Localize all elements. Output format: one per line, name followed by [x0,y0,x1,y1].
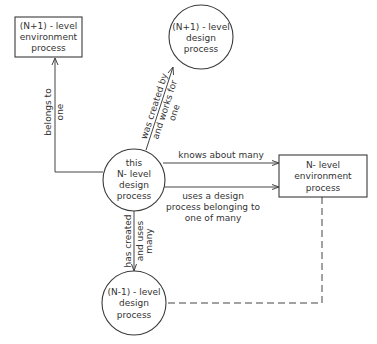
node-label-line: environment [294,171,352,181]
node-label-line: N- level [117,169,151,179]
node-label-line: process [31,43,66,53]
edge-label-uses-2: process belonging to [166,202,260,212]
edge-label-belongs-to: belongs to [43,88,53,136]
node-label-line: N- level [306,160,340,170]
node-label-line: (N+1) - level [20,21,77,31]
node-n-minus-1-design-process[interactable]: (N-1) - level design process [102,271,166,335]
node-label-line: process [117,310,152,320]
edge-label-uses-1: uses a design [182,191,244,201]
design-process-diagram: belongs to one was created by and works … [0,0,377,344]
edge-label-uses-3: one of many [185,213,242,223]
node-n-plus-1-design-process[interactable]: (N+1) - level design process [169,5,233,69]
edge-label-knows-about: knows about many [178,150,264,160]
edge-label-line: one [55,103,65,120]
node-label-line: process [117,191,152,201]
edge-label-belongs-to-2: one [55,103,65,120]
node-n-level-environment-process[interactable]: N- level environment process [279,155,367,197]
edge-label-has-created-1: has created [123,214,133,267]
node-label-line: this [126,158,143,168]
node-label-line: (N-1) - level [107,287,160,297]
edge-label-has-created-3: many [144,228,154,254]
node-n-plus-1-environment-process[interactable]: (N+1) - level environment process [15,17,82,57]
node-label-line: (N+1) - level [172,22,229,32]
edge-created-by: was created by and works for one [139,67,190,150]
node-label-line: design [119,298,149,308]
node-label-line: process [184,44,219,54]
node-this-n-level-design-process[interactable]: this N- level design process [103,149,165,211]
node-label-line: design [119,180,149,190]
edge-has-created: has created and uses many [123,211,154,271]
node-label-line: process [306,183,341,193]
edge-belongs-to: belongs to one [43,58,103,172]
node-label-line: environment [20,32,78,42]
edge-label-line: belongs to [43,88,53,136]
edge-knows-about: knows about many [163,150,279,166]
edge-uses-design-process: uses a design process belonging to one o… [160,185,279,224]
node-label-line: design [186,33,216,43]
